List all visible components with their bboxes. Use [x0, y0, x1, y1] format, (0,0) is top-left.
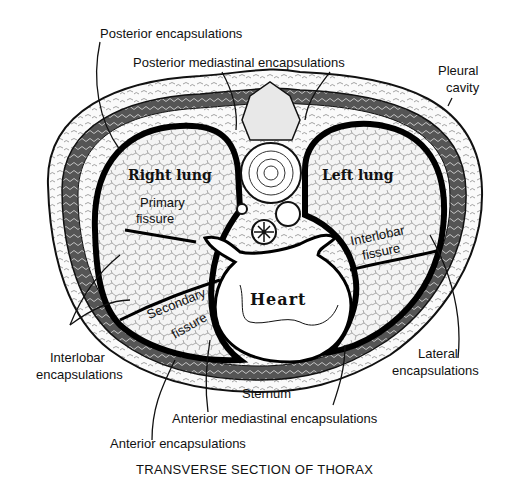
- left-lung-label: Left lung: [322, 168, 394, 183]
- posterior-mediastinal-encapsulations-label: Posterior mediastinal encapsulations: [133, 55, 345, 70]
- primary-fissure-label-line2: fissure: [136, 211, 174, 226]
- right-lung-label: Right lung: [128, 168, 212, 183]
- lateral-encapsulations-label-line2: encapsulations: [392, 363, 479, 378]
- sternum-label: Sternum: [242, 386, 291, 401]
- esophagus: [237, 204, 247, 214]
- anterior-encapsulations-label: Anterior encapsulations: [110, 436, 246, 451]
- interlobar-encapsulations-label-line1: Interlobar: [50, 350, 105, 365]
- anterior-mediastinal-encapsulations-label: Anterior mediastinal encapsulations: [172, 411, 377, 426]
- aorta: [276, 202, 300, 226]
- posterior-encapsulations-label: Posterior encapsulations: [100, 26, 242, 41]
- pleural-cavity-label-line2: cavity: [446, 80, 479, 95]
- heart-label: Heart: [250, 292, 306, 307]
- vertebral-body: [241, 143, 301, 203]
- primary-fissure-label-line1: Primary: [140, 195, 185, 210]
- interlobar-encapsulations-label-line2: encapsulations: [36, 367, 123, 382]
- pleural-cavity-label-line1: Pleural: [438, 63, 478, 78]
- diagram-title: TRANSVERSE SECTION OF THORAX: [136, 462, 373, 477]
- thorax-diagram: Right lung Left lung Heart Posterior enc…: [0, 0, 522, 486]
- lateral-encapsulations-label-line1: Lateral: [418, 346, 458, 361]
